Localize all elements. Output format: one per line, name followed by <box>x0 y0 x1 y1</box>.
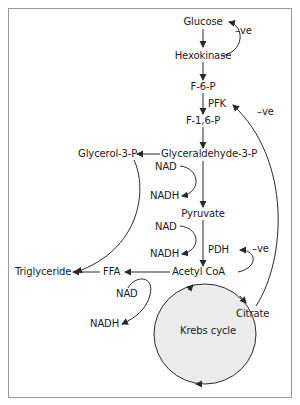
node-f6p: F-6-P <box>191 81 216 93</box>
label-pdh-negative-feedback: –ve <box>252 243 269 255</box>
node-glucose: Glucose <box>183 16 222 28</box>
node-f16p: F-1,6-P <box>186 115 220 127</box>
node-nad-1: NAD <box>155 161 177 173</box>
node-nadh-3: NADH <box>90 318 119 330</box>
node-acetyl-coa: Acetyl CoA <box>172 266 225 278</box>
label-hexokinase-negative-feedback: –ve <box>235 25 252 37</box>
node-citrate: Citrate <box>236 308 269 320</box>
node-nad-2: NAD <box>155 221 177 233</box>
label-pfk-negative-feedback: –ve <box>257 106 274 118</box>
node-nadh-2: NADH <box>150 248 179 260</box>
node-triglyceride: Triglyceride <box>15 266 71 278</box>
pathway-arrows <box>0 0 300 405</box>
node-krebs-cycle: Krebs cycle <box>180 325 236 337</box>
node-nadh-1: NADH <box>150 190 179 202</box>
node-glycerol-3-p: Glycerol-3-P <box>78 148 137 160</box>
node-hexokinase: Hexokinase <box>175 50 232 62</box>
node-pfk: PFK <box>208 98 226 110</box>
node-pdh: PDH <box>208 244 229 256</box>
node-ffa: FFA <box>103 266 120 278</box>
node-pyruvate: Pyruvate <box>181 208 225 220</box>
node-nad-3: NAD <box>116 288 138 300</box>
node-glyceraldehyde-3-p: Glyceraldehyde-3-P <box>161 148 257 160</box>
